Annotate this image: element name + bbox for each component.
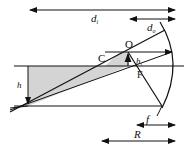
label-O: O <box>125 38 133 50</box>
label-f: f <box>146 113 151 125</box>
label-C: C <box>98 52 105 64</box>
label-R: R <box>133 128 141 140</box>
label-h: h <box>17 80 22 90</box>
label-d-o: do <box>147 21 156 34</box>
optics-diagram: di do O C hi F h f R <box>0 0 194 148</box>
label-F: F <box>137 69 143 80</box>
focal-ray <box>128 52 162 106</box>
label-d-i: di <box>91 12 99 25</box>
label-h-i: hi <box>136 56 143 67</box>
f-tail <box>157 106 162 116</box>
concave-mirror <box>160 22 173 108</box>
small-shaded-triangle <box>105 52 128 66</box>
